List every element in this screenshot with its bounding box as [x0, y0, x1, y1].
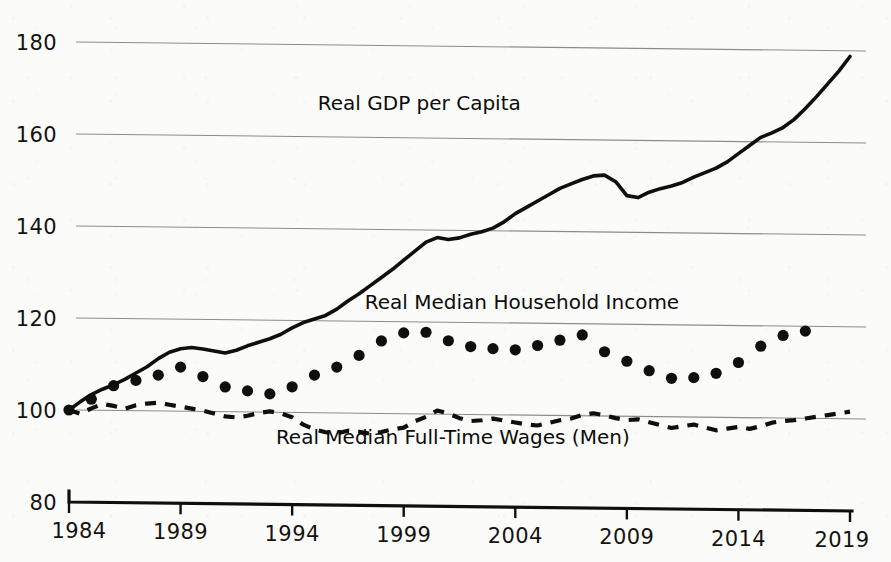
x-axis-label-2019: 2019	[814, 528, 869, 552]
income-dot	[63, 404, 74, 415]
series-label-income: Real Median Household Income	[365, 290, 679, 314]
x-axis-tick-labels: 19841989199419992004200920142019	[51, 519, 869, 552]
income-dot	[487, 343, 498, 354]
income-dot	[153, 370, 164, 381]
income-dot	[376, 335, 387, 346]
income-dot	[264, 388, 275, 399]
axis-group	[69, 491, 852, 522]
income-dot	[621, 356, 632, 367]
income-dot	[86, 394, 97, 405]
income-dot	[755, 341, 766, 352]
income-dot	[599, 346, 610, 357]
income-dot	[711, 368, 722, 379]
income-dot	[644, 365, 655, 376]
income-dot	[443, 335, 454, 346]
series-real-median-household-income	[63, 325, 811, 415]
series-label-gdp: Real GDP per Capita	[318, 91, 521, 115]
income-dot	[420, 327, 431, 338]
x-axis-label-1984: 1984	[51, 519, 106, 543]
income-dot	[197, 371, 208, 382]
chart-container: 18016014012010080 1984198919941999200420…	[0, 0, 891, 562]
y-axis-label-80: 80	[29, 491, 57, 515]
income-dot	[666, 373, 677, 384]
x-axis-line	[69, 491, 852, 511]
series-annotation-labels: Real GDP per CapitaReal Median Household…	[276, 91, 679, 449]
income-dot	[242, 385, 253, 396]
series-label-wages: Real Median Full-Time Wages (Men)	[276, 425, 630, 449]
y-axis-label-180: 180	[16, 31, 57, 55]
income-dot	[220, 381, 231, 392]
x-axis-label-2004: 2004	[488, 524, 543, 548]
y-axis-label-120: 120	[16, 307, 57, 331]
income-dot	[175, 362, 186, 373]
income-dot	[733, 357, 744, 368]
y-axis-label-100: 100	[16, 399, 57, 423]
income-dot	[309, 370, 320, 381]
income-dot	[130, 375, 141, 386]
x-axis-label-2009: 2009	[599, 525, 654, 549]
income-dot	[777, 330, 788, 341]
y-axis-tick-labels: 18016014012010080	[16, 31, 57, 515]
income-dot	[353, 350, 364, 361]
gridline-160	[76, 134, 866, 143]
gridline-180	[76, 42, 866, 51]
chart-plot-area: 18016014012010080 1984198919941999200420…	[0, 0, 891, 562]
income-dot	[554, 335, 565, 346]
income-dot	[287, 381, 298, 392]
x-axis-label-1999: 1999	[376, 523, 431, 547]
income-dot	[532, 340, 543, 351]
income-dot	[108, 380, 119, 391]
gridline-100	[76, 410, 866, 419]
income-dot	[577, 329, 588, 340]
income-dot	[331, 361, 342, 372]
income-dot	[510, 344, 521, 355]
x-axis-label-1994: 1994	[265, 522, 320, 546]
x-axis-label-1989: 1989	[153, 520, 208, 544]
y-axis-label-140: 140	[16, 215, 57, 239]
income-dot	[398, 327, 409, 338]
income-dot	[800, 325, 811, 336]
gridline-120	[76, 318, 866, 327]
income-dot	[465, 341, 476, 352]
y-axis-label-160: 160	[16, 123, 57, 147]
x-axis-label-2014: 2014	[711, 527, 766, 551]
income-dot	[688, 372, 699, 383]
